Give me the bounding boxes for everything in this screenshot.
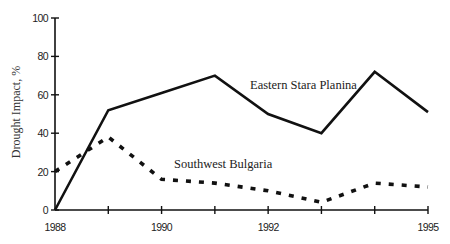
y-tick-label: 0 <box>43 204 49 216</box>
series-lines <box>55 72 428 210</box>
x-tick-label: 1990 <box>151 221 173 233</box>
y-axis: 020406080100 <box>32 12 59 216</box>
series-label: Southwest Bulgaria <box>174 157 273 171</box>
y-tick-label: 20 <box>38 166 49 178</box>
series-label: Eastern Stara Planina <box>250 78 357 92</box>
y-axis-title: Drought Impact, % <box>9 66 23 158</box>
y-tick-label: 100 <box>32 12 48 24</box>
x-axis: 1988199019921995 <box>45 206 440 233</box>
x-tick-label: 1992 <box>258 221 280 233</box>
x-tick-label: 1995 <box>418 221 440 233</box>
y-tick-label: 60 <box>38 89 49 101</box>
x-tick-label: 1988 <box>45 221 67 233</box>
y-tick-label: 80 <box>38 50 49 62</box>
y-tick-label: 40 <box>38 127 49 139</box>
drought-impact-chart: Drought Impact, % 020406080100 198819901… <box>0 0 450 244</box>
